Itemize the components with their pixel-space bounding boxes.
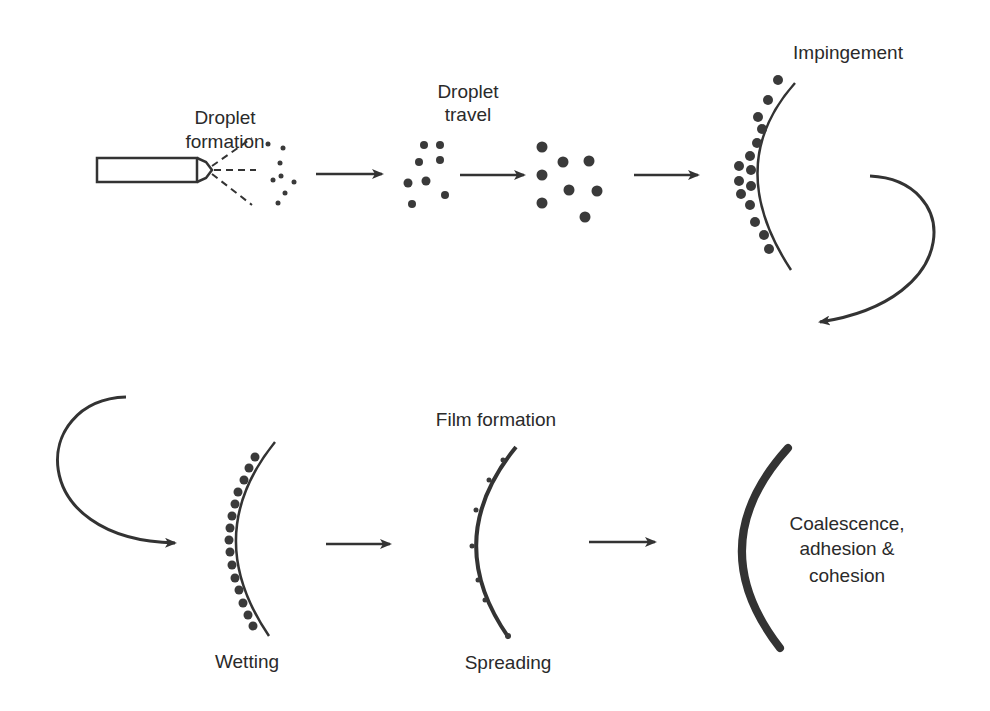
travel-droplets-small <box>404 141 450 208</box>
small-droplets <box>266 142 297 206</box>
label-wetting: Wetting <box>215 651 279 672</box>
travel-droplets-large <box>537 142 603 223</box>
label-droplet-travel-1: Droplet <box>437 81 499 102</box>
coalesced-film <box>742 448 788 648</box>
label-droplet-formation-1: Droplet <box>194 107 256 128</box>
wetting-surface <box>225 442 276 636</box>
label-film-formation: Film formation <box>436 409 556 430</box>
label-droplet-formation-2: formation <box>185 131 264 152</box>
label-impingement: Impingement <box>793 42 904 63</box>
label-coalescence-2: adhesion & <box>799 538 894 559</box>
label-droplet-travel-2: travel <box>445 104 491 125</box>
label-spreading: Spreading <box>465 652 552 673</box>
label-coalescence-1: Coalescence, <box>789 513 904 534</box>
impingement-surface <box>734 75 795 270</box>
spreading-surface <box>470 447 517 639</box>
curved-arrow-icon <box>820 176 934 322</box>
curved-arrow-icon <box>58 397 175 543</box>
spray-coating-diagram: Droplet formation Droplet travel Impinge… <box>0 0 990 711</box>
label-coalescence-3: cohesion <box>809 565 885 586</box>
